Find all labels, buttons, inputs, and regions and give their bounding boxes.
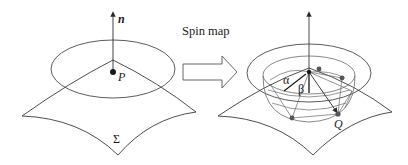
spin-map-label: Spin map [182, 24, 230, 38]
right-surface [218, 68, 392, 155]
left-panel: n P Σ [22, 12, 196, 155]
point-q [335, 111, 340, 116]
spin-map-transition: Spin map [182, 24, 237, 88]
alpha-label: α [283, 73, 290, 87]
grid-point-3 [290, 116, 295, 121]
meridian-8 [345, 91, 352, 108]
block-arrow-icon [183, 56, 237, 88]
meridian-2 [309, 72, 342, 78]
point-q-label: Q [334, 117, 343, 131]
center-point [307, 70, 311, 74]
spin-map-diagram: n P Σ Spin map [0, 0, 408, 165]
normal-label: n [118, 12, 125, 26]
point-p [110, 69, 116, 75]
right-panel: α β Q [218, 14, 392, 155]
beta-label: β [298, 82, 304, 96]
meridian-6 [270, 84, 292, 118]
grid-point-2 [340, 76, 345, 81]
surface-sigma [22, 60, 196, 155]
grid-point-1 [317, 67, 322, 72]
point-p-label: P [117, 70, 126, 84]
surface-label: Σ [113, 132, 120, 146]
